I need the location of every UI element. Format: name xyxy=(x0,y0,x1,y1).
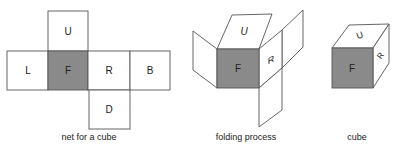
folding-diagram: U F R folding process xyxy=(193,10,303,142)
cube-net-diagram: U L F R B D net for a cube U F R folding… xyxy=(0,0,397,149)
fold-label-f: F xyxy=(235,63,241,74)
fold-face-l xyxy=(193,31,217,88)
cube-diagram: U F R cube xyxy=(332,24,389,142)
net-label-d: D xyxy=(105,104,112,115)
net-diagram: U L F R B D net for a cube xyxy=(7,11,170,142)
folding-caption: folding process xyxy=(216,132,277,142)
net-label-l: L xyxy=(25,65,31,76)
cube-label-f: F xyxy=(349,63,355,74)
cube-caption: cube xyxy=(347,132,367,142)
net-label-f: F xyxy=(65,65,71,76)
net-label-b: B xyxy=(147,65,154,76)
fold-label-u: U xyxy=(240,26,248,37)
net-label-u: U xyxy=(64,26,71,37)
fold-face-b xyxy=(282,10,303,68)
net-label-r: R xyxy=(105,65,112,76)
net-caption: net for a cube xyxy=(61,132,116,142)
